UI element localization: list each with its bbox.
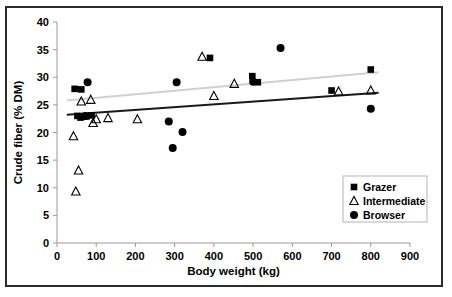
x-tick-label: 400: [205, 250, 223, 262]
data-point-filled-circle: [367, 105, 375, 113]
legend-label: Browser: [363, 209, 405, 221]
y-tick-label: 0: [43, 237, 49, 249]
y-tick-label: 30: [37, 71, 49, 83]
y-tick-label: 10: [37, 182, 49, 194]
legend-marker-filled-circle: [350, 211, 358, 219]
data-point-filled-circle: [277, 44, 285, 52]
data-point-filled-circle: [249, 78, 257, 86]
chart-legend[interactable]: GrazerIntermediateBrowser: [343, 176, 427, 222]
data-point-filled-circle: [179, 128, 187, 136]
data-point-filled-circle: [81, 112, 89, 120]
x-tick-label: 900: [401, 250, 419, 262]
data-point-filled-circle: [173, 78, 181, 86]
data-point-filled-square: [88, 112, 95, 119]
x-tick-label: 0: [54, 250, 60, 262]
series-intermediate: [69, 52, 375, 195]
data-point-filled-circle: [169, 144, 177, 152]
x-axis-title: Body weight (kg): [187, 265, 280, 277]
y-tick-label: 40: [37, 16, 49, 28]
data-point-filled-square: [71, 86, 78, 93]
data-point-filled-square: [367, 66, 374, 73]
x-tick-label: 100: [87, 250, 105, 262]
data-point-open-triangle: [74, 166, 82, 174]
data-point-filled-square: [78, 86, 85, 93]
series-browser: [81, 44, 375, 152]
legend-marker-filled-square: [351, 184, 358, 191]
data-point-open-triangle: [334, 87, 342, 95]
x-tick-label: 500: [244, 250, 262, 262]
data-point-open-triangle: [133, 115, 141, 123]
x-tick-label: 600: [283, 250, 301, 262]
data-point-open-triangle: [72, 187, 80, 195]
y-axis-title: Crude fiber (% DM): [12, 81, 24, 185]
y-tick-label: 25: [37, 99, 49, 111]
scatter-plot: 0510152025303540010020030040050060070080…: [0, 0, 452, 297]
data-point-filled-circle: [165, 117, 173, 125]
data-point-open-triangle: [69, 132, 77, 140]
legend-label: Grazer: [363, 181, 396, 193]
data-point-open-triangle: [210, 91, 218, 99]
data-point-open-triangle: [198, 52, 206, 60]
axes: 0510152025303540010020030040050060070080…: [37, 16, 419, 262]
y-tick-label: 20: [37, 127, 49, 139]
data-point-open-triangle: [104, 114, 112, 122]
x-tick-label: 700: [322, 250, 340, 262]
data-point-filled-square: [207, 55, 214, 62]
y-tick-label: 15: [37, 154, 49, 166]
x-tick-label: 300: [165, 250, 183, 262]
y-tick-label: 5: [43, 209, 49, 221]
data-points: [69, 44, 375, 195]
data-point-filled-circle: [84, 78, 92, 86]
figure-container: 0510152025303540010020030040050060070080…: [0, 0, 452, 297]
x-tick-label: 800: [362, 250, 380, 262]
legend-label: Intermediate: [363, 195, 426, 207]
x-tick-label: 200: [126, 250, 144, 262]
y-tick-label: 35: [37, 44, 49, 56]
data-point-filled-square: [328, 87, 335, 94]
